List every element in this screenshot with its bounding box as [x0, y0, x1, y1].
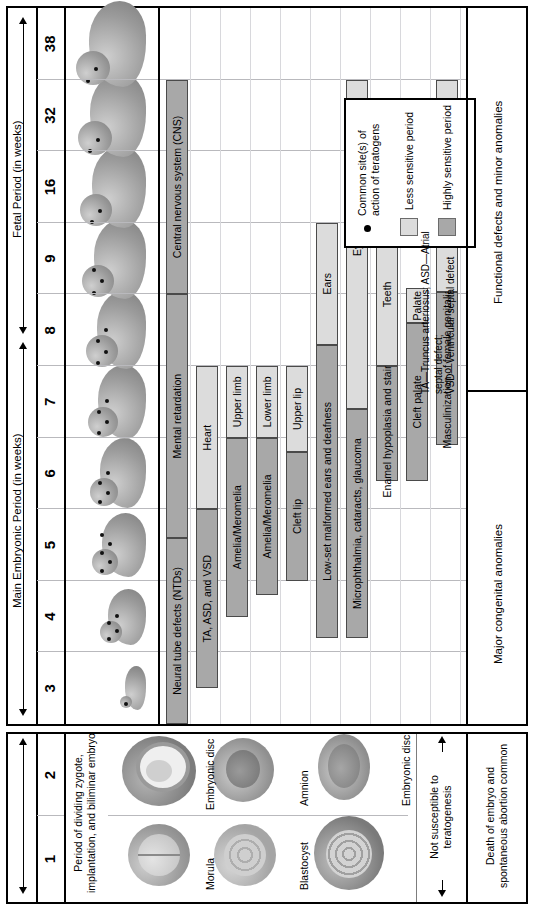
legend-high-label: Highly sensitive period [441, 105, 454, 210]
col-divider [66, 79, 158, 80]
note-arrow-line-left [442, 880, 443, 890]
preembryonic-stage-caption: Period of dividing zygote, implantation,… [72, 733, 98, 893]
teratogen-site-dot [97, 410, 101, 414]
label-embryonic-disc-2: Embryonic disc [400, 735, 412, 806]
bar-eyes-high: Microphthalmia, cataracts, glaucoma [346, 409, 368, 638]
row-separator [340, 8, 341, 724]
bar-label: Amelia/Meromelia [261, 474, 273, 558]
bar-label: Enamel hypoplasia and staining [381, 349, 393, 497]
divider [36, 8, 38, 724]
label-amnion: Amnion [298, 770, 310, 806]
col-divider [37, 437, 64, 438]
col-divider [37, 508, 64, 509]
teratogen-site-dot [124, 702, 128, 706]
fetal-arrow-right [19, 17, 27, 24]
note-arrow-right [438, 736, 446, 743]
band-functional-defects: Functional defects and minor anomalies [492, 101, 504, 304]
row-separator [310, 8, 311, 724]
embryo-illustration-week-16 [80, 146, 146, 228]
week-col-4: 4 [41, 581, 58, 653]
abbreviation-footnote: TA—Truncus arteriosus; ASD—Atrial septal… [420, 204, 458, 394]
teratogen-site-dot [100, 533, 104, 537]
figure-rotation-wrapper: 1 2 Period of dividing zygote, implantat… [0, 0, 534, 910]
fetal-period-label: Fetal Period (in weeks) [11, 114, 23, 244]
bar-central-nervous-system-cns--high: Central nervous system (CNS) [166, 80, 188, 295]
teratogen-site-dot [108, 560, 112, 564]
teratogen-site-dot [100, 569, 104, 573]
bar-teeth-high: Enamel hypoplasia and staining [376, 366, 398, 481]
teratogen-site-dot [96, 138, 100, 142]
bar-label: TA, ASD, and VSD [201, 555, 213, 642]
bar-ears-high: Low-set malformed ears and deafness [316, 345, 338, 639]
bar-label: Low-set malformed ears and deafness [321, 402, 333, 581]
critical-periods-figure: 1 2 Period of dividing zygote, implantat… [0, 0, 534, 910]
col-divider [66, 365, 158, 366]
col-divider [37, 293, 64, 294]
col-divider [37, 651, 64, 652]
col-divider [37, 150, 64, 151]
embryo-illustration-week-9 [82, 219, 146, 299]
row-separator [250, 8, 251, 724]
preembryonic-panel: 1 2 Period of dividing zygote, implantat… [6, 732, 528, 904]
bar-label: Central nervous system (CNS) [171, 116, 183, 258]
teratogen-site-dot [107, 621, 111, 625]
teratogen-site-dot [96, 339, 100, 343]
divider [64, 8, 66, 724]
teratogen-site-dot [108, 542, 112, 546]
teratogen-site-dot [100, 551, 104, 555]
teratogen-site-dot [92, 268, 96, 272]
week-col-9: 9 [41, 223, 58, 295]
teratogen-site-dot [104, 328, 108, 332]
embryo-illustration-week-6 [90, 438, 146, 508]
teratogen-site-dot [115, 614, 119, 618]
col-divider [37, 222, 64, 223]
week-col-38: 38 [41, 8, 58, 80]
col-divider [66, 150, 158, 151]
bar-upper-limb-high: Amelia/Meromelia [226, 438, 248, 617]
bar-heart-less: Heart [196, 366, 218, 509]
not-susceptible-note: Not susceptible to teratogenesis [428, 754, 454, 880]
col-divider [37, 580, 64, 581]
teratogen-site-dot [104, 350, 108, 354]
embryo-illustration-week-5 [92, 513, 146, 577]
divider [158, 8, 160, 724]
embryonic-arrow-left [19, 709, 27, 716]
col-divider [66, 651, 158, 652]
note-arrow-left [438, 890, 446, 897]
blastocyst-illustration [304, 732, 394, 892]
gridline [160, 79, 466, 80]
fetal-span-line [23, 22, 24, 328]
band-death-of-embryo: Death of embryo and spontaneous abortion… [484, 738, 510, 894]
week-col-2: 2 [41, 734, 58, 816]
divider [64, 734, 66, 902]
week-col-1: 1 [41, 816, 58, 902]
bar-label: Ears [321, 273, 333, 295]
bar-label: Amelia/Meromelia [231, 485, 243, 569]
label-embryonic-disc-1: Embryonic disc [204, 739, 216, 810]
week-col-8: 8 [41, 294, 58, 366]
embryo-illustration-week-8 [86, 291, 146, 369]
bar-ears-less: Ears [316, 223, 338, 345]
teratogen-site-dot [107, 637, 111, 641]
bar-upper-lip-less: Upper lip [286, 366, 308, 452]
legend-dot-swatch [364, 225, 371, 232]
note-arrow-line-right [442, 742, 443, 752]
embryo-illustration-week-3 [120, 666, 146, 710]
col-divider [66, 580, 158, 581]
col-divider [37, 79, 64, 80]
teratogen-site-dot [97, 431, 101, 435]
preembryonic-span-line [23, 742, 24, 888]
embryo-illustration-week-7 [88, 365, 146, 439]
morula-illustration [206, 732, 284, 892]
col-divider [37, 365, 64, 366]
fetal-arrow-left [19, 327, 27, 334]
bar-lower-limb-high: Amelia/Meromelia [256, 438, 278, 596]
bar-label: Heart [201, 425, 213, 451]
col-divider [66, 508, 158, 509]
band-divider [467, 390, 528, 392]
divider [466, 734, 468, 902]
divider [36, 734, 38, 902]
week-col-16: 16 [41, 151, 58, 223]
embryonic-period-label: Main Embryonic Period (in weeks) [11, 428, 23, 614]
bar-label: Microphthalmia, cataracts, glaucoma [351, 438, 363, 609]
